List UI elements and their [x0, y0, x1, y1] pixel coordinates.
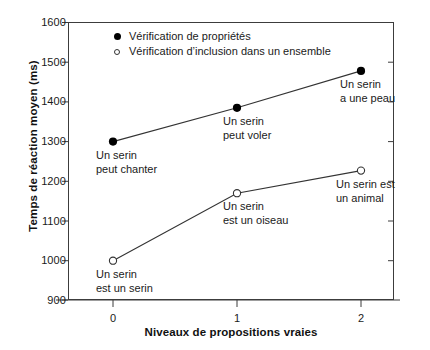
filled-circle-icon	[110, 33, 124, 40]
legend-label-inclusion: Vérification d’inclusion dans un ensembl…	[124, 46, 331, 57]
chart-legend: Vérification de propriétés Vérification …	[110, 29, 331, 59]
legend-item-proprietes: Vérification de propriétés	[110, 29, 331, 44]
y-tick-900: 900	[22, 295, 66, 306]
annotation-est-un-serin: Un serin est un serin	[96, 268, 153, 295]
chart-figure: 1600 1500 1400 1300 1200 1100 1000 900 0…	[0, 0, 430, 350]
x-axis-ticks	[113, 300, 361, 307]
y-axis-title: Temps de réaction moyen (ms)	[27, 31, 39, 261]
annotation-a-une-peau: Un serin a une peau	[340, 78, 395, 105]
x-tick-2: 2	[349, 313, 373, 324]
x-axis-title: Niveaux de propositions vraies	[68, 326, 394, 338]
legend-item-inclusion: Vérification d’inclusion dans un ensembl…	[110, 44, 331, 59]
annotation-peut-voler: Un serin peut voler	[223, 115, 271, 142]
open-circle-icon	[110, 49, 124, 55]
legend-label-proprietes: Vérification de propriétés	[124, 31, 251, 42]
y-tick-1600: 1600	[22, 17, 66, 28]
annotation-est-un-animal: Un serin est un animal	[336, 178, 395, 205]
x-tick-0: 0	[101, 313, 125, 324]
annotation-peut-chanter: Un serin peut chanter	[96, 149, 157, 176]
x-tick-1: 1	[225, 313, 249, 324]
annotation-est-un-oiseau: Un serin est un oiseau	[223, 200, 288, 227]
